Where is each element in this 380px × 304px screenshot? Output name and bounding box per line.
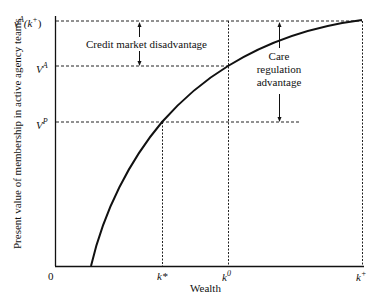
xtick-origin: 0 xyxy=(48,270,54,282)
y-axis-title: Present value of membership in active ag… xyxy=(11,39,23,249)
xtick-kstar: k* xyxy=(157,270,167,282)
care-line-1: Care xyxy=(248,50,310,63)
ytick-VP: VP xyxy=(36,116,48,131)
ytick-VA: VA xyxy=(36,60,48,75)
care-regulation-label: Care regulation advantage xyxy=(248,50,310,89)
arrowhead-up-icon xyxy=(138,22,142,27)
care-line-2: regulation xyxy=(248,63,310,76)
x-axis-title: Wealth xyxy=(190,282,221,294)
xtick-k0: k0 xyxy=(222,268,231,283)
arrowhead-down-icon xyxy=(278,117,282,122)
arrowhead-up-icon xyxy=(278,22,282,27)
credit-market-label: Credit market disadvantage xyxy=(86,38,207,50)
care-line-3: advantage xyxy=(248,76,310,89)
arrowhead-down-icon xyxy=(138,61,142,66)
value-curve xyxy=(91,20,362,266)
xtick-kplus: k+ xyxy=(356,268,366,283)
